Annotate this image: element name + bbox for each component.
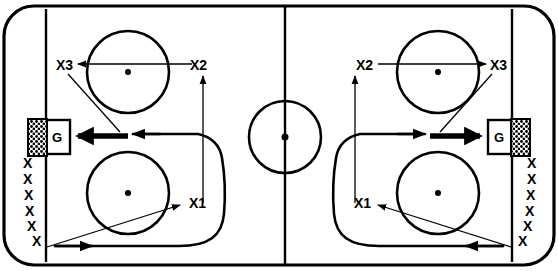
left-goalie-marker: G xyxy=(52,130,62,145)
left-x1-label: X1 xyxy=(189,195,206,211)
left-goal: G xyxy=(28,119,70,156)
player-x-mark: X xyxy=(526,187,536,203)
player-x-mark: X xyxy=(23,155,33,171)
player-x-mark: X xyxy=(527,171,537,187)
player-x-mark: X xyxy=(24,187,34,203)
player-x-mark: X xyxy=(25,203,35,219)
right-goalie-marker: G xyxy=(494,130,504,145)
player-x-mark: X xyxy=(32,233,42,249)
player-x-mark: X xyxy=(23,171,33,187)
left-x3-label: X3 xyxy=(56,57,73,73)
player-x-mark: X xyxy=(518,233,528,249)
center-ice-dot xyxy=(282,134,289,141)
right-x3-label: X3 xyxy=(490,57,507,73)
player-x-mark: X xyxy=(527,155,537,171)
player-x-mark: X xyxy=(27,218,37,234)
left-x2-label: X2 xyxy=(190,57,207,73)
hockey-rink-diagram: G X3 X2 X1 X X X X X X xyxy=(0,0,558,271)
player-x-mark: X xyxy=(525,203,535,219)
right-goal: G xyxy=(488,119,530,156)
right-x2-label: X2 xyxy=(356,57,373,73)
rink-canvas: G X3 X2 X1 X X X X X X xyxy=(0,0,558,271)
player-x-mark: X xyxy=(523,218,533,234)
left-goal-crease xyxy=(28,119,47,156)
right-x1-label: X1 xyxy=(354,195,371,211)
right-goal-crease xyxy=(511,119,530,156)
